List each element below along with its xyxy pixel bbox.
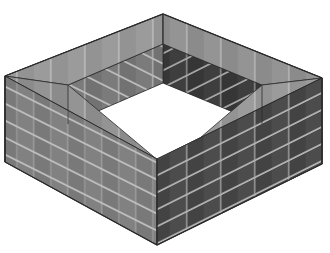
illustration-canvas: Isometric hollow square brick wall enclo… <box>0 0 330 253</box>
brick-enclosure-svg: Isometric hollow square brick wall enclo… <box>0 0 330 253</box>
